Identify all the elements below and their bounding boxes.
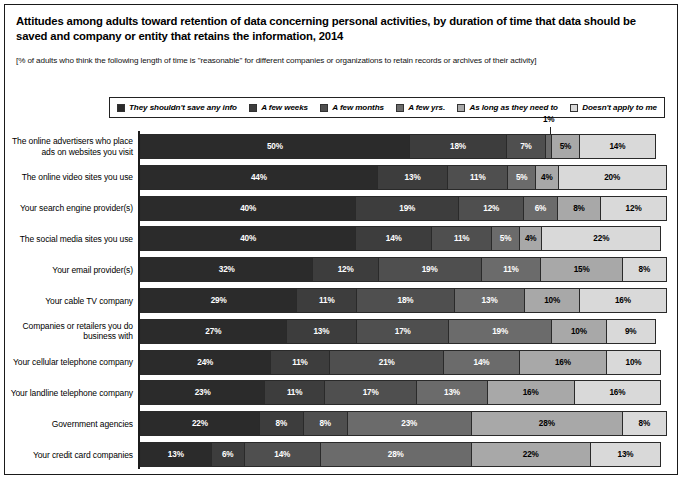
bar-segment[interactable]: 22% <box>542 227 660 250</box>
bar-segment[interactable]: 5% <box>552 135 580 158</box>
bar-segment[interactable]: 4% <box>536 166 558 189</box>
stacked-bar[interactable]: 22%8%8%23%28%8% <box>140 411 667 436</box>
bar-segment[interactable]: 19% <box>449 320 552 343</box>
bar-segment[interactable]: 20% <box>559 166 666 189</box>
bar-segment[interactable]: 18% <box>410 135 507 158</box>
bar-segment[interactable]: 11% <box>448 166 508 189</box>
bar-segment[interactable]: 5% <box>508 166 536 189</box>
bar-segment[interactable]: 10% <box>552 320 607 343</box>
bar-segment[interactable]: 40% <box>141 227 356 250</box>
bar-segment[interactable]: 6% <box>212 443 245 466</box>
bar-segment[interactable]: 17% <box>357 320 449 343</box>
legend-item-4[interactable]: As long as they need to <box>457 103 558 112</box>
bar-segment[interactable]: 10% <box>607 351 661 374</box>
bar-segment[interactable]: 9% <box>607 320 655 343</box>
bar-segment[interactable]: 15% <box>541 258 622 281</box>
bar-segment[interactable]: 19% <box>356 197 459 220</box>
chart-row: Government agencies22%8%8%23%28%8% <box>5 411 678 437</box>
bar-segment[interactable]: 10% <box>525 289 580 312</box>
bar-segment[interactable]: 14% <box>245 443 321 466</box>
legend-item-2[interactable]: A few months <box>320 103 384 112</box>
bar-segment[interactable]: 6% <box>524 197 557 220</box>
stacked-bar[interactable]: 40%19%12%6%8%12% <box>140 196 667 221</box>
bar-segment[interactable]: 16% <box>488 381 575 404</box>
bar-segment[interactable]: 40% <box>141 197 356 220</box>
bar-segment[interactable]: 8% <box>260 412 304 435</box>
bar-segment[interactable]: 13% <box>455 289 526 312</box>
bar-segment[interactable]: 21% <box>330 351 444 374</box>
bar-segment[interactable]: 8% <box>623 258 666 281</box>
chart-row: Your cable TV company29%11%18%13%10%16% <box>5 288 678 314</box>
bar-segment[interactable]: 12% <box>601 197 665 220</box>
bar-segment[interactable]: 14% <box>444 351 520 374</box>
stacked-bar[interactable]: 23%11%17%13%16%16% <box>140 380 661 405</box>
bar-segment[interactable]: 32% <box>141 258 313 281</box>
bar-segment[interactable]: 23% <box>141 381 265 404</box>
legend-item-0[interactable]: They shouldn't save any info <box>117 103 237 112</box>
legend-item-1[interactable]: A few weeks <box>249 103 308 112</box>
bar-segment[interactable]: 16% <box>520 351 607 374</box>
bar-segment[interactable]: 14% <box>356 227 432 250</box>
legend-swatch-icon <box>570 104 578 112</box>
bar-segment[interactable]: 16% <box>580 289 666 312</box>
chart-subtitle: [% of adults who think the following len… <box>16 55 671 66</box>
bar-segment[interactable]: 8% <box>304 412 348 435</box>
bar-segment[interactable]: 22% <box>472 443 591 466</box>
bar-segment[interactable]: 13% <box>378 166 449 189</box>
segment-value-label: 21% <box>379 358 395 367</box>
row-label: Your email provider(s) <box>5 265 133 276</box>
bar-segment[interactable]: 7% <box>507 135 546 158</box>
bar-segment[interactable]: 8% <box>558 197 602 220</box>
segment-value-label: 17% <box>363 388 379 397</box>
bar-segment[interactable]: 12% <box>313 258 378 281</box>
bar-segment[interactable]: 22% <box>141 412 260 435</box>
bar-segment[interactable]: 11% <box>482 258 542 281</box>
bar-segment[interactable]: 11% <box>271 351 331 374</box>
bar-segment[interactable]: 29% <box>141 289 297 312</box>
segment-value-label: 12% <box>483 204 499 213</box>
stacked-bar[interactable]: 27%13%17%19%10%9% <box>140 319 656 344</box>
bar-segment[interactable]: 4% <box>520 227 542 250</box>
bar-segment[interactable]: 8% <box>623 412 666 435</box>
bar-segment[interactable]: 27% <box>141 320 287 343</box>
segment-value-label: 32% <box>219 265 235 274</box>
bar-segment[interactable]: 50% <box>141 135 410 158</box>
bar-segment[interactable]: 14% <box>580 135 655 158</box>
segment-value-label: 12% <box>626 204 642 213</box>
segment-value-label: 13% <box>444 388 460 397</box>
legend-item-3[interactable]: A few yrs. <box>396 103 445 112</box>
bar-segment[interactable]: 17% <box>325 381 417 404</box>
bar-segment[interactable]: 24% <box>141 351 271 374</box>
stacked-bar[interactable]: 44%13%11%5%4%20% <box>140 165 667 190</box>
stacked-bar[interactable]: 32%12%19%11%15%8% <box>140 257 667 282</box>
chart-row: Your landline telephone company23%11%17%… <box>5 380 678 406</box>
bar-segment[interactable]: 16% <box>575 381 661 404</box>
stacked-bar[interactable]: 29%11%18%13%10%16% <box>140 288 667 313</box>
bar-segment[interactable]: 19% <box>379 258 482 281</box>
legend-swatch-icon <box>117 104 125 112</box>
bar-segment[interactable]: 13% <box>417 381 488 404</box>
bar-segment[interactable]: 23% <box>348 412 472 435</box>
bar-segment[interactable]: 11% <box>432 227 492 250</box>
bar-segment[interactable]: 44% <box>141 166 378 189</box>
segment-value-label: 11% <box>292 358 308 367</box>
bar-segment[interactable]: 13% <box>287 320 358 343</box>
bar-segment[interactable]: 11% <box>297 289 357 312</box>
stacked-bar[interactable]: 40%14%11%5%4%22% <box>140 226 661 251</box>
stacked-bar[interactable]: 13%6%14%28%22%13% <box>140 442 661 467</box>
segment-value-label: 29% <box>211 296 227 305</box>
bar-segment[interactable]: 11% <box>265 381 325 404</box>
segment-value-label: 40% <box>240 234 256 243</box>
bar-segment[interactable]: 12% <box>459 197 524 220</box>
bar-segment[interactable]: 18% <box>357 289 454 312</box>
bar-segment[interactable]: 28% <box>472 412 623 435</box>
bar-segment[interactable]: 13% <box>591 443 661 466</box>
legend-item-5[interactable]: Doesn't apply to me <box>570 103 657 112</box>
stacked-bar[interactable]: 24%11%21%14%16%10% <box>140 350 661 375</box>
bar-segment[interactable]: 28% <box>321 443 472 466</box>
segment-value-label: 8% <box>639 265 651 274</box>
stacked-bar[interactable]: 50%18%7%5%14% <box>140 134 656 159</box>
bar-segment[interactable]: 13% <box>141 443 212 466</box>
segment-value-label: 8% <box>573 204 585 213</box>
bar-segment[interactable]: 5% <box>492 227 520 250</box>
